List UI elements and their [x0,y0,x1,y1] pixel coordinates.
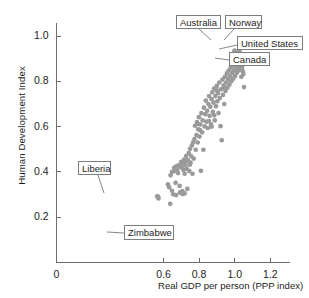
leader-line-australia [199,29,211,40]
data-point [201,147,206,152]
data-point [197,115,202,120]
data-point [214,104,219,109]
data-point [242,85,247,90]
leader-line-canada [215,58,229,60]
callout-united-states: United States [237,36,303,50]
data-point [172,166,177,171]
data-point [241,72,246,77]
data-point [182,191,187,196]
data-point [174,193,179,198]
callout-australia: Australia [176,15,221,29]
x-tick-label: 0 [42,268,72,280]
data-point-liberia [155,194,160,199]
data-points [155,48,246,231]
x-tick-label: 0.6 [148,268,178,280]
data-point [177,184,182,189]
data-point [173,180,178,185]
data-point [216,111,221,116]
data-point [195,140,200,145]
y-tick-label: 0.2 [19,210,49,222]
data-point [208,104,213,109]
data-point [212,118,217,123]
data-point [219,138,224,143]
leader-line-liberia [98,175,104,193]
x-axis-title: Real GDP per person (PPP index) [158,280,303,291]
data-point [198,128,203,133]
data-point [215,88,220,93]
callout-zimbabwe: Zimbabwe [124,225,174,240]
leader-line-norway [224,29,234,40]
data-point [182,171,187,176]
data-point [191,156,196,161]
data-point [197,134,202,139]
data-point [207,119,212,124]
data-point [209,124,214,129]
data-point [199,168,204,173]
data-point [187,162,192,167]
y-axis-title: Human Development Index [16,61,27,191]
data-point [176,171,181,176]
data-point [190,171,195,176]
y-tick-label: 1.0 [19,29,49,41]
callout-liberia: Liberia [78,161,111,175]
x-tick-label: 1.0 [220,268,250,280]
data-point [185,187,190,192]
x-tick-label: 1.2 [255,268,285,280]
data-point [222,102,227,107]
callout-norway: Norway [225,15,262,29]
data-point [218,124,223,129]
data-point [168,173,173,178]
data-point [221,93,226,98]
callout-canada: Canada [229,52,270,66]
chart-screenshot: 0.20.40.60.81.0 00.60.81.01.2 AustraliaN… [0,0,309,298]
data-point [195,122,200,127]
data-point [193,147,198,152]
data-point [212,113,217,118]
data-point [192,137,197,142]
data-point [205,108,210,113]
scatter-plot: 0.20.40.60.81.0 00.60.81.01.2 AustraliaN… [0,0,309,298]
data-point [168,202,173,207]
annotation-leader-lines [98,29,237,233]
leader-line-zimbabwe [107,232,124,233]
x-tick-label: 0.8 [184,268,214,280]
data-point [222,86,227,91]
data-point [207,113,212,118]
